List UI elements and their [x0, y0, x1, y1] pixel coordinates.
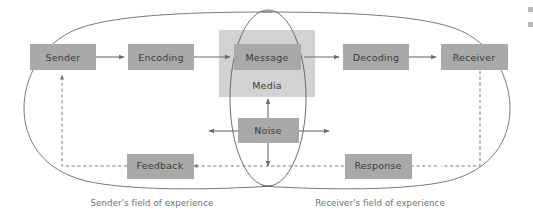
message-label: Message [245, 52, 288, 63]
node-sender: Sender [30, 44, 96, 70]
decoding-label: Decoding [353, 52, 400, 63]
response-label: Response [354, 160, 401, 171]
cropped-edge-artifact-top [528, 7, 533, 12]
feedback-label: Feedback [137, 160, 184, 171]
node-receiver: Receiver [441, 44, 508, 70]
encoding-label: Encoding [138, 52, 183, 63]
receiver-label: Receiver [453, 52, 496, 63]
communication-model-diagram: Media Sender Encoding Message [0, 0, 533, 215]
node-feedback: Feedback [127, 154, 194, 179]
sender-label: Sender [46, 52, 81, 63]
dashed-path-receiver-to-response [441, 71, 480, 166]
node-response: Response [345, 154, 412, 179]
diagram-canvas: Media Sender Encoding Message [0, 0, 533, 215]
dashed-path-feedback-to-sender [62, 75, 127, 166]
cropped-edge-artifact-bottom [528, 22, 533, 27]
node-message: Message [234, 44, 301, 70]
media-panel-label: Media [252, 80, 282, 91]
node-decoding: Decoding [343, 44, 409, 70]
caption-sender-field: Sender's field of experience [91, 198, 214, 208]
node-noise: Noise [238, 118, 299, 143]
node-encoding: Encoding [128, 44, 194, 70]
noise-label: Noise [254, 125, 281, 136]
caption-receiver-field: Receiver's field of experience [315, 198, 445, 208]
